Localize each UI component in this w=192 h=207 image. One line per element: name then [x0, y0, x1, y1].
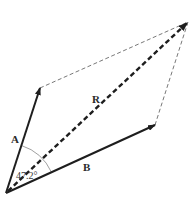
vector-b-arrow: [6, 125, 155, 193]
angle-arc: [21, 146, 51, 173]
label-r: R: [92, 93, 101, 105]
vector-diagram: A R B 47.2°: [0, 0, 192, 207]
construction-line-top: [40, 22, 188, 88]
label-b: B: [83, 161, 91, 173]
label-a: A: [11, 133, 19, 145]
angle-label: 47.2°: [16, 170, 38, 181]
